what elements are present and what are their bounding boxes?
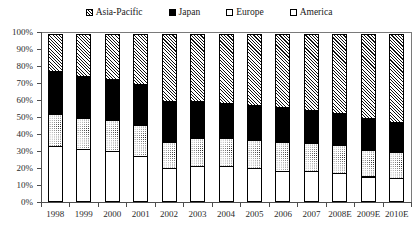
stacked-bar [162, 32, 177, 202]
x-axis-tick [240, 202, 241, 207]
bar-columns [41, 32, 411, 202]
bar-segment-america [275, 171, 290, 202]
x-axis-tick-label: 2009E [354, 209, 382, 220]
y-axis: 100%90%80%70%60%50%40%30%20%10%0% [0, 32, 38, 202]
x-axis-tick [126, 202, 127, 207]
x-axis-tick-label: 2003 [183, 209, 211, 220]
bar-segment-asia-pacific [332, 34, 347, 114]
chart-legend: Asia-Pacific Japan Europe America [0, 8, 418, 18]
white-swatch-icon [290, 9, 297, 16]
column-slot [183, 32, 211, 202]
bar-segment-japan [76, 76, 91, 119]
column-slot [98, 32, 126, 202]
bar-segment-asia-pacific [48, 34, 63, 71]
legend-label-europe: Europe [236, 8, 263, 18]
legend-label-america: America [300, 8, 333, 18]
bar-segment-america [389, 178, 404, 202]
column-slot [269, 32, 297, 202]
bar-segment-europe [219, 138, 234, 167]
column-slot [155, 32, 183, 202]
y-axis-tick-label: 80% [17, 62, 34, 71]
bar-segment-america [133, 156, 148, 202]
legend-label-asia-pacific: Asia-Pacific [96, 8, 143, 18]
bar-segment-asia-pacific [76, 34, 91, 77]
x-axis-tick [269, 202, 270, 207]
bar-segment-america [361, 177, 376, 203]
x-axis-tick-label: 2010E [383, 209, 411, 220]
bar-segment-japan [48, 71, 63, 115]
bar-segment-asia-pacific [133, 34, 148, 85]
x-axis-tick [41, 202, 42, 207]
bar-segment-europe [133, 125, 148, 157]
bar-segment-europe [247, 140, 262, 169]
bar-segment-japan [133, 85, 148, 126]
x-axis-tick-label: 2005 [240, 209, 268, 220]
bar-segment-europe [304, 143, 319, 172]
bar-segment-america [304, 171, 319, 202]
y-axis-tick-label: 30% [17, 147, 34, 156]
x-axis-tick-label: 2002 [155, 209, 183, 220]
bar-segment-asia-pacific [190, 34, 205, 102]
bar-segment-asia-pacific [162, 34, 177, 102]
stacked-bar [76, 32, 91, 202]
bar-segment-asia-pacific [247, 34, 262, 105]
y-axis-tick-label: 70% [17, 79, 34, 88]
y-axis-tick-label: 60% [17, 96, 34, 105]
bar-segment-europe [190, 138, 205, 167]
column-slot [326, 32, 354, 202]
solid-black-swatch-icon [169, 9, 176, 16]
stacked-bar [247, 32, 262, 202]
bar-segment-europe [332, 145, 347, 174]
legend-item-europe: Europe [226, 8, 263, 18]
x-axis-tick [212, 202, 213, 207]
x-axis-tick-label: 2008E [326, 209, 354, 220]
legend-item-asia-pacific: Asia-Pacific [86, 8, 143, 18]
x-axis-tick [297, 202, 298, 207]
column-slot [69, 32, 97, 202]
bar-segment-europe [48, 114, 63, 146]
stacked-bar [48, 32, 63, 202]
x-axis-tick [411, 202, 412, 207]
column-slot [41, 32, 69, 202]
x-axis-tick-label: 2006 [269, 209, 297, 220]
y-axis-tick-label: 20% [17, 164, 34, 173]
bar-segment-japan [105, 80, 120, 121]
stacked-bar [133, 32, 148, 202]
bar-segment-europe [105, 120, 120, 152]
bar-segment-japan [389, 122, 404, 153]
bar-segment-japan [162, 102, 177, 143]
bar-segment-europe [76, 118, 91, 150]
bar-segment-japan [190, 102, 205, 139]
column-slot [297, 32, 325, 202]
bar-segment-america [332, 173, 347, 202]
bar-segment-japan [275, 107, 290, 143]
legend-item-japan: Japan [169, 8, 201, 18]
stacked-bar [190, 32, 205, 202]
x-axis-tick-label: 2004 [212, 209, 240, 220]
x-axis-tick-label: 2007 [297, 209, 325, 220]
bar-segment-japan [219, 103, 234, 139]
bar-segment-asia-pacific [275, 34, 290, 107]
x-axis-tick-label: 1998 [41, 209, 69, 220]
bar-segment-america [247, 168, 262, 202]
column-slot [212, 32, 240, 202]
x-axis-tick [98, 202, 99, 207]
bar-segment-europe [162, 142, 177, 169]
y-axis-tick-label: 10% [17, 181, 34, 190]
stacked-bar [361, 32, 376, 202]
y-axis-tick-label: 0% [21, 198, 33, 207]
x-axis-tick-label: 2001 [126, 209, 154, 220]
bar-segment-asia-pacific [389, 34, 404, 122]
bar-segment-america [162, 168, 177, 202]
legend-item-america: America [290, 8, 333, 18]
stacked-bar [389, 32, 404, 202]
x-axis-tick [69, 202, 70, 207]
bar-segment-america [190, 166, 205, 202]
x-axis-tick [354, 202, 355, 207]
column-slot [126, 32, 154, 202]
bar-segment-america [219, 166, 234, 202]
bar-segment-asia-pacific [361, 34, 376, 119]
x-axis-tick-label: 1999 [69, 209, 97, 220]
x-axis-labels: 1998199920002001200220032004200520062007… [41, 209, 411, 220]
column-slot [354, 32, 382, 202]
